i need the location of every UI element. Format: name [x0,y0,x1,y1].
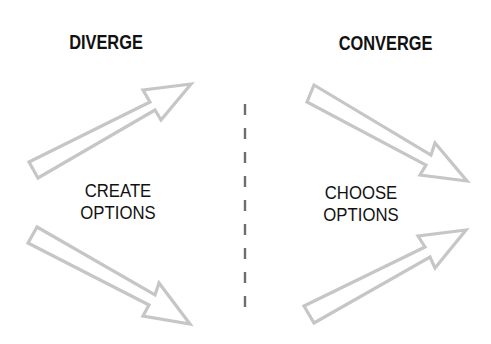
arrow-down-right-icon [307,85,467,181]
choose-options-label: CHOOSE OPTIONS [317,182,405,226]
heading-converge: CONVERGE [339,32,429,53]
choose-options-line1: CHOOSE [317,182,405,204]
create-options-line1: CREATE [74,180,162,202]
create-options-line2: OPTIONS [74,202,162,224]
choose-options-line2: OPTIONS [317,204,405,226]
arrow-up-right-icon [29,84,191,178]
heading-diverge: DIVERGE [67,31,145,52]
create-options-label: CREATE OPTIONS [74,180,162,224]
arrow-down-right-icon [28,227,190,324]
arrow-up-right-icon [304,230,466,323]
diverge-converge-diagram: DIVERGE CONVERGE CREATE OPTIONS CHOOSE O… [0,0,491,344]
